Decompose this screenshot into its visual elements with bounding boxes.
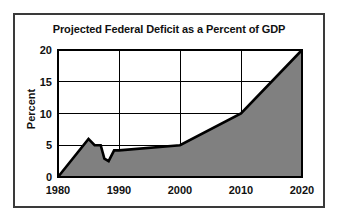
x-tick-label: 2020	[290, 184, 314, 196]
x-tick-label: 2000	[168, 184, 192, 196]
chart-figure: Projected Federal Deficit as a Percent o…	[13, 13, 325, 208]
y-axis-tick-labels: 05101520	[40, 44, 52, 183]
x-tick-label: 1980	[46, 184, 70, 196]
y-tick-label: 15	[40, 76, 52, 88]
y-tick-label: 20	[40, 44, 52, 56]
y-tick-label: 10	[40, 108, 52, 120]
x-tick-label: 1990	[107, 184, 131, 196]
x-tick-label: 2010	[229, 184, 253, 196]
y-tick-label: 5	[46, 139, 52, 151]
x-axis-tick-labels: 19801990200020102020	[46, 184, 314, 196]
y-tick-label: 0	[46, 171, 52, 183]
plot-area: 05101520 19801990200020102020	[15, 15, 327, 210]
